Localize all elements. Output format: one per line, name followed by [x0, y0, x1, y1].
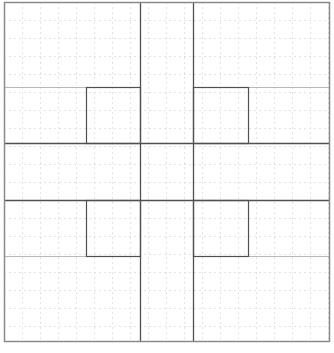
inner-boxes [87, 88, 249, 257]
inner-box-top-right [194, 88, 249, 144]
grid-diagram [0, 0, 334, 353]
dashed-grid [4, 2, 329, 341]
inner-box-top-left [87, 88, 141, 144]
